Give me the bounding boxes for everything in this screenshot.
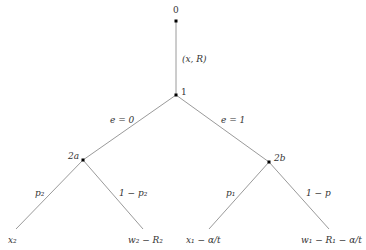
- edge-label-e1: e = 1: [221, 116, 245, 125]
- edge-label-e0: e = 0: [110, 116, 134, 125]
- leaf-x1: x₁ − α/t: [186, 236, 221, 245]
- node-0: [175, 20, 178, 23]
- edge-1-2a: [83, 95, 176, 160]
- edge-2a-x2: [16, 160, 83, 229]
- node-2a-label: 2a: [68, 152, 79, 161]
- node-1: [175, 94, 178, 97]
- leaf-w2-R2: w₂ − R₂: [128, 236, 163, 245]
- leaf-w1-R1: w₁ − R₁ − α/t: [301, 236, 362, 245]
- edge-label-action: (x, R): [182, 55, 207, 64]
- node-2a: [82, 159, 85, 162]
- edge-1-2b: [176, 95, 269, 162]
- edge-2b-x1: [209, 162, 269, 229]
- edge-label-1-p: 1 − p: [306, 189, 331, 198]
- edge-label-1-p2: 1 − p₂: [119, 189, 147, 198]
- node-2b: [268, 161, 271, 164]
- node-2b-label: 2b: [274, 154, 286, 163]
- node-1-label: 1: [181, 88, 187, 97]
- edge-label-p2: p₂: [35, 189, 44, 198]
- edge-label-p1: p₁: [226, 189, 235, 198]
- node-0-label: 0: [173, 6, 179, 15]
- leaf-x2: x₂: [8, 236, 17, 245]
- game-tree: [0, 0, 366, 250]
